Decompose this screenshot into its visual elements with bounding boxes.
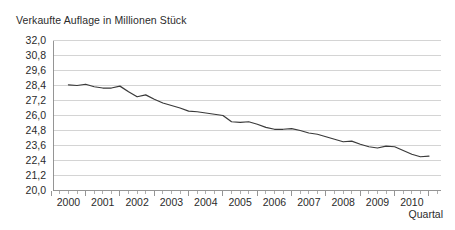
x-tick-label: 2000 (57, 196, 81, 208)
gridlines-group (53, 41, 441, 191)
line-chart-plot: 32,030,829,628,427,226,024,823,622,421,2… (0, 0, 455, 230)
x-tick-label: 2004 (194, 196, 218, 208)
y-tick-label: 32,0 (26, 34, 47, 46)
chart-container: Verkaufte Auflage in Millionen Stück 32,… (0, 0, 455, 230)
x-axis-group: 2000200120022003200420052006200720082009… (51, 191, 437, 209)
x-tick-label: 2010 (400, 196, 424, 208)
y-tick-label: 23,6 (26, 139, 47, 151)
x-tick-label: 2007 (297, 196, 321, 208)
x-tick-label: 2006 (263, 196, 287, 208)
y-tick-label: 22,4 (26, 154, 47, 166)
x-tick-label: 2001 (91, 196, 115, 208)
y-tick-label: 20,0 (26, 184, 47, 196)
x-tick-label: 2005 (228, 196, 252, 208)
x-tick-label: 2008 (331, 196, 355, 208)
y-tick-label: 30,8 (26, 49, 47, 61)
y-tick-label: 29,6 (26, 64, 47, 76)
y-tick-label: 21,2 (26, 169, 47, 181)
x-tick-label: 2003 (160, 196, 184, 208)
y-axis-group: 32,030,829,628,427,226,024,823,622,421,2… (26, 34, 53, 196)
x-tick-label: 2009 (366, 196, 390, 208)
x-tick-label: 2002 (125, 196, 149, 208)
y-tick-label: 26,0 (26, 109, 47, 121)
y-tick-label: 27,2 (26, 94, 47, 106)
y-tick-label: 24,8 (26, 124, 47, 136)
y-tick-label: 28,4 (26, 79, 47, 91)
x-axis-label: Quartal (409, 208, 443, 220)
